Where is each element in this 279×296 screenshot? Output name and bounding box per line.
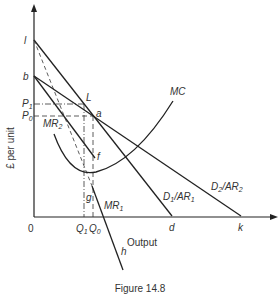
label-a: a — [96, 108, 102, 119]
y-axis-title: £ per unit — [5, 127, 16, 169]
label-mc: MC — [170, 86, 186, 97]
y-axis-arrow-icon — [31, 4, 37, 12]
label-g: g — [86, 192, 92, 203]
label-l: l — [24, 35, 27, 46]
label-k: k — [238, 222, 244, 233]
label-p1: P1 — [22, 98, 33, 110]
figure-caption: Figure 14.8 — [115, 283, 166, 294]
label-d2-ar2: D2/AR2 — [211, 181, 243, 193]
mr1-dashed-segment — [34, 40, 92, 186]
label-d1-ar1: D1/AR1 — [163, 191, 195, 203]
x-axis-arrow-icon — [270, 214, 278, 220]
label-mr2: MR2 — [43, 118, 63, 130]
label-q0: Q0 — [89, 223, 101, 235]
label-mr1: MR1 — [104, 200, 124, 212]
label-p0: P0 — [22, 110, 33, 122]
label-f: f — [97, 151, 101, 162]
label-L: L — [86, 92, 92, 103]
x-axis-title: Output — [127, 237, 157, 248]
diagram-canvas: l b P1 P0 L a f g h d k Q1 Q0 0 MC MR2 M… — [0, 0, 279, 296]
label-b: b — [23, 71, 29, 82]
label-q1: Q1 — [76, 223, 88, 235]
mc-curve — [54, 101, 173, 173]
label-origin: 0 — [28, 223, 34, 234]
label-d: d — [169, 222, 175, 233]
mr2-curve — [34, 76, 95, 158]
